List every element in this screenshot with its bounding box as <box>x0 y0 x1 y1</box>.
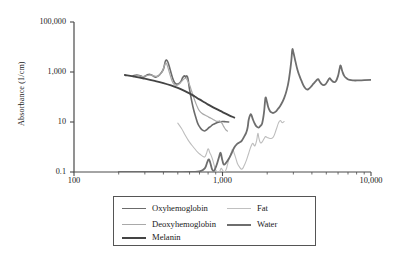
legend-label: Water <box>257 220 277 229</box>
absorption-spectrum-figure: Absorbance (1/cm) 0.1101,000100,000 1001… <box>0 0 408 265</box>
legend-item-fat[interactable]: Fat <box>227 202 268 215</box>
legend-swatch-line-icon <box>122 224 146 225</box>
legend-label: Melanin <box>152 233 181 242</box>
legend-label: Deoxyhemoglobin <box>152 220 216 229</box>
x-tick-label: 1,000 <box>213 176 232 185</box>
y-tick-label: 1,000 <box>48 68 66 76</box>
x-tick-label: 10,000 <box>359 176 382 185</box>
series-lines <box>119 49 371 172</box>
legend-label: Oxyhemoglobin <box>152 204 208 213</box>
y-axis-title: Absorbance (1/cm) <box>14 38 28 150</box>
legend-item-melanin[interactable]: Melanin <box>122 231 181 244</box>
y-tick-label: 100,000 <box>39 18 66 26</box>
series-line-water <box>119 49 371 172</box>
legend-item-deoxyhemoglobin[interactable]: Deoxyhemoglobin <box>122 218 216 231</box>
x-tick-label: 100 <box>68 176 81 185</box>
legend-item-water[interactable]: Water <box>227 218 277 231</box>
series-line-fat <box>178 120 284 172</box>
legend-swatch-line-icon <box>227 208 251 209</box>
series-line-deoxyhemoglobin <box>133 63 227 131</box>
y-tick-label: 0.1 <box>56 168 66 176</box>
series-line-melanin <box>125 75 234 118</box>
y-tick-label: 10 <box>58 118 66 126</box>
legend-label: Fat <box>257 204 268 213</box>
legend-swatch-line-icon <box>122 208 146 209</box>
legend-swatch-line-icon <box>122 237 146 239</box>
legend-item-oxyhemoglobin[interactable]: Oxyhemoglobin <box>122 202 208 215</box>
legend-swatch-line-icon <box>227 224 251 226</box>
legend-box: OxyhemoglobinDeoxyhemoglobinMelaninFatWa… <box>113 196 316 246</box>
legend-items: OxyhemoglobinDeoxyhemoglobinMelaninFatWa… <box>114 197 315 245</box>
